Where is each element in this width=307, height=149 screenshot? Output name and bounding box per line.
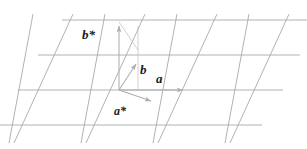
construction-lines — [119, 22, 138, 90]
grid-column-line-rising — [14, 14, 73, 143]
vector-label-a: a — [156, 72, 163, 85]
vector-b — [119, 64, 136, 90]
lattice-diagram-canvas — [0, 0, 307, 149]
vector-a-star — [119, 90, 151, 101]
grid-column-line-rising — [158, 14, 217, 143]
grid-column-line-rising — [230, 14, 289, 143]
grid-diagonal-lines-rising — [14, 14, 289, 143]
lattice-figure: a b b* a* — [0, 0, 307, 149]
vector-label-b: b — [140, 63, 147, 76]
vector-label-b-star: b* — [82, 28, 95, 41]
vector-label-a-star: a* — [114, 105, 126, 117]
grid-column-line — [225, 14, 249, 143]
grid-column-line — [9, 14, 33, 143]
basis-vectors — [119, 26, 183, 101]
grid-diagonal-lines — [9, 14, 249, 143]
